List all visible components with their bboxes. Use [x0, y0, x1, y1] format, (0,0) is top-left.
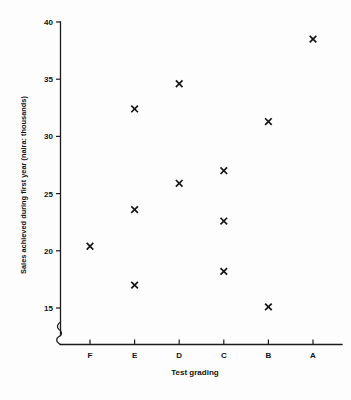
data-point-marker	[310, 36, 317, 43]
chart-canvas: 40 35 30 25 20 15 F E D C B A Test gradi…	[0, 0, 351, 400]
x-tick-label-f: F	[88, 351, 93, 360]
x-tick-label-d: D	[176, 351, 182, 360]
data-point-marker	[131, 106, 138, 113]
data-point-marker	[221, 218, 228, 225]
x-axis-title: Test grading	[171, 368, 219, 377]
x-axis-ticks	[90, 340, 313, 345]
data-point-marker	[221, 167, 228, 174]
data-point-marker	[176, 80, 183, 87]
x-tick-label-a: A	[310, 351, 316, 360]
y-tick-label-35: 35	[44, 75, 53, 84]
data-points-group	[87, 36, 317, 310]
data-point-marker	[221, 268, 228, 275]
x-tick-label-e: E	[132, 351, 138, 360]
y-tick-label-40: 40	[44, 18, 53, 27]
y-axis-ticks	[56, 22, 61, 308]
data-point-marker	[131, 282, 138, 289]
y-axis-title: Sales achieved during first year (naira:…	[19, 96, 28, 274]
scatter-chart: 40 35 30 25 20 15 F E D C B A Test gradi…	[0, 0, 351, 400]
data-point-marker	[87, 243, 94, 250]
data-point-marker	[176, 180, 183, 187]
y-tick-label-30: 30	[44, 132, 53, 141]
data-point-marker	[265, 118, 272, 125]
x-tick-label-c: C	[221, 351, 227, 360]
y-tick-label-25: 25	[44, 190, 53, 199]
y-tick-label-15: 15	[44, 304, 53, 313]
x-tick-label-b: B	[266, 351, 272, 360]
data-point-marker	[265, 304, 272, 311]
data-point-marker	[131, 206, 138, 213]
y-tick-label-20: 20	[44, 247, 53, 256]
